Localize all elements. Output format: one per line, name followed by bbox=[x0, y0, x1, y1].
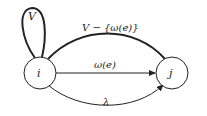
upper-arc-label: V − {ω(e)} bbox=[82, 22, 139, 33]
state-transition-diagram: V V − {ω(e)} ω(e) λ i j bbox=[0, 0, 207, 116]
upper-arc-edge bbox=[48, 34, 165, 60]
straight-edge-label: ω(e) bbox=[94, 59, 116, 70]
node-i-label: i bbox=[37, 67, 41, 80]
lower-arc-label: λ bbox=[102, 96, 109, 107]
self-loop-label: V bbox=[28, 10, 37, 23]
